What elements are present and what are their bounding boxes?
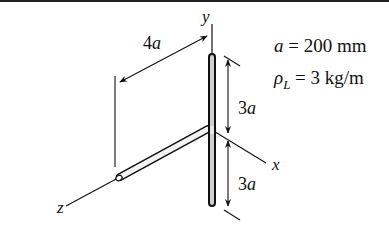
a-symbol: a	[274, 35, 284, 56]
parameters-block: a = 200 mm ρL = 3 kg/m	[274, 30, 367, 101]
x-axis-label: x	[271, 155, 280, 174]
rod-assembly-diagram: 4a 3a 3a y x z a = 200 mm ρL = 3 kg/m	[0, 0, 389, 226]
dimension-arrow-4a	[120, 36, 207, 82]
a-value: = 200 mm	[288, 35, 366, 56]
z-axis-line	[66, 178, 118, 206]
param-a: a = 200 mm	[274, 30, 367, 62]
z-rod	[115, 129, 208, 182]
y-axis-label: y	[200, 7, 210, 26]
dimension-3a-upper: 3a	[224, 56, 256, 133]
top-border	[0, 0, 389, 2]
dimension-label-upper: 3a	[238, 98, 256, 118]
y-rod	[208, 53, 216, 207]
dimension-label-lower: 3a	[238, 174, 256, 194]
z-axis-label: z	[56, 198, 64, 217]
dimension-4a: 4a	[115, 33, 207, 167]
extension-tick-top	[224, 56, 240, 66]
dimension-label-4a: 4a	[143, 33, 161, 53]
param-rho: ρL = 3 kg/m	[274, 62, 367, 101]
rho-value: = 3 kg/m	[295, 67, 364, 88]
x-axis-line	[212, 130, 266, 163]
rho-symbol: ρ	[274, 67, 283, 88]
rho-subscript: L	[283, 77, 290, 92]
dimension-3a-lower: 3a	[224, 141, 256, 220]
extension-tick-bottom	[224, 210, 240, 220]
